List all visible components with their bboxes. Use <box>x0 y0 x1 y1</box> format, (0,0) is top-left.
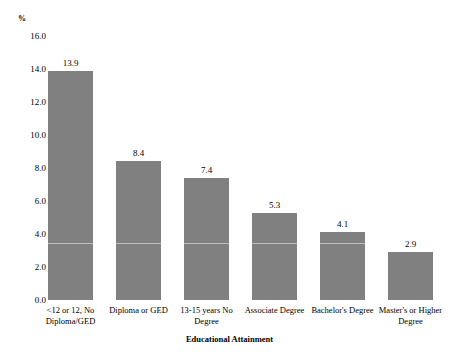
bar <box>184 178 229 300</box>
bar-value-label: 2.9 <box>376 239 445 249</box>
bar-gridline <box>252 243 297 244</box>
bar <box>252 213 297 300</box>
bar-chart: % 0.02.04.06.08.010.012.014.016.0 13.98.… <box>0 0 459 355</box>
x-axis-category-label: Master's or Higher Degree <box>372 305 449 327</box>
x-axis-title: Educational Attainment <box>0 334 459 345</box>
x-axis-category-label: Associate Degree <box>236 305 313 316</box>
x-axis-category-label: 13-15 years No Degree <box>168 305 245 327</box>
bar-value-label: 8.4 <box>104 148 173 158</box>
bar <box>388 252 433 300</box>
bar-value-label: 5.3 <box>240 200 309 210</box>
x-axis-category-label: Diploma or GED <box>100 305 177 316</box>
bar <box>48 71 93 300</box>
x-axis-category-label: <12 or 12, No Diploma/GED <box>32 305 109 327</box>
bar-value-label: 13.9 <box>36 58 105 68</box>
bar-gridline <box>48 243 93 244</box>
bar-gridline <box>116 243 161 244</box>
x-axis-category-label: Bachelor's Degree <box>304 305 381 316</box>
bar-gridline <box>184 243 229 244</box>
plot-area: 13.98.47.45.34.12.9 <box>0 0 459 355</box>
bar-gridline <box>320 243 365 244</box>
bar-value-label: 4.1 <box>308 219 377 229</box>
bar <box>116 161 161 300</box>
bar-value-label: 7.4 <box>172 165 241 175</box>
